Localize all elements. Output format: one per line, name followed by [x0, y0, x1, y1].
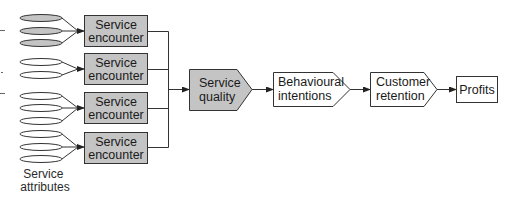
- profits-node: Profits: [457, 77, 498, 103]
- svg-text:Serviceencounter: Serviceencounter: [88, 18, 144, 45]
- behavioural-intentions-node: Behaviouralintentions: [274, 73, 351, 107]
- service-attribute: [20, 131, 62, 138]
- attribute-group-2: [20, 59, 84, 79]
- service-attribute: [20, 105, 62, 112]
- service-attribute: [20, 144, 62, 151]
- service-quality-node: Servicequality: [190, 70, 253, 111]
- service-attribute: [20, 28, 62, 35]
- attribute-group-1: [20, 15, 84, 47]
- svg-text:Serviceencounter: Serviceencounter: [88, 95, 144, 122]
- service-attribute: [20, 156, 62, 163]
- service-encounter-box-3: Serviceencounter: [85, 93, 148, 124]
- edge-marks: [0, 31, 5, 94]
- service-attributes-caption: Service attributes: [20, 167, 69, 194]
- service-profit-chain-diagram: Service attributes Serviceencounter Serv…: [0, 0, 513, 197]
- service-encounter-box-1: Serviceencounter: [85, 16, 148, 47]
- service-attribute: [20, 118, 62, 125]
- service-attribute: [20, 93, 62, 100]
- svg-text:Servicequality: Servicequality: [199, 76, 241, 104]
- service-attribute: [20, 40, 62, 47]
- service-attribute: [20, 72, 62, 79]
- service-attribute: [20, 15, 62, 22]
- svg-text:Serviceencounter: Serviceencounter: [88, 135, 144, 162]
- svg-text:Profits: Profits: [459, 83, 494, 97]
- svg-text:Customerretention: Customerretention: [376, 75, 430, 103]
- customer-retention-node: Customerretention: [371, 73, 438, 107]
- service-encounter-box-2: Serviceencounter: [85, 54, 148, 85]
- service-attribute: [20, 59, 62, 66]
- attribute-group-3: [20, 93, 84, 125]
- encounter-connector: [148, 32, 190, 148]
- attribute-group-4: [20, 131, 84, 163]
- svg-text:Serviceencounter: Serviceencounter: [88, 56, 144, 83]
- service-encounter-box-4: Serviceencounter: [85, 133, 148, 164]
